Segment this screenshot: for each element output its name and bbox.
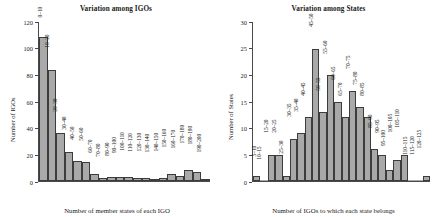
bar <box>167 174 176 181</box>
bar-category-label: 90–100 <box>112 137 118 153</box>
bar <box>268 155 275 182</box>
bar-category-label: 55–60 <box>324 40 330 53</box>
bar-category-label: 70–75 <box>346 56 352 69</box>
bar <box>275 155 282 182</box>
y-tick-mark-igos <box>35 102 38 103</box>
y-tick-label-igos: 40 <box>27 125 33 132</box>
bar-slot: 120–130 <box>142 22 151 181</box>
y-tick-label-states: 20 <box>241 72 247 79</box>
bar-category-label: 140–150 <box>154 133 160 152</box>
bar-slot: 45–50 <box>312 22 319 181</box>
plot-area-states: 051015202530 5–1010–1515–2020–2525–3030–… <box>252 22 430 182</box>
bar-category-label: 60–70 <box>88 139 94 152</box>
bar-slot: 110–115 <box>408 22 415 181</box>
bar-category-label: 160–170 <box>171 130 177 149</box>
x-axis-line-igos <box>38 181 210 182</box>
bar-slot: 20–30 <box>56 22 65 181</box>
y-tick-label-states: 5 <box>244 152 247 159</box>
bar <box>401 155 408 182</box>
chart-title-states: Variation among States <box>218 5 439 13</box>
x-axis-line-states <box>252 181 430 182</box>
bar <box>342 117 349 181</box>
y-tick-mark-states <box>249 22 252 23</box>
bar-category-label: 0–10 <box>38 7 44 18</box>
y-tick-label-igos: 0 <box>30 179 33 186</box>
figure-two-histograms: Variation among IGOs Number of IGOs 0204… <box>0 0 439 217</box>
bar-slot: 90–95 <box>378 22 385 181</box>
bar-slot: 150–160 <box>167 22 176 181</box>
bar <box>408 180 415 181</box>
plot-area-igos: 020406080100120 0–1010–2020–3030–4040–50… <box>38 22 210 182</box>
bar-category-label: 80–90 <box>105 142 111 155</box>
bar <box>393 160 400 181</box>
bar-category-label: 105–110 <box>395 109 401 127</box>
bar-slot: 105–110 <box>401 22 408 181</box>
bar-category-label: 30–40 <box>62 117 68 130</box>
bar-category-label: 15–20 <box>265 119 271 132</box>
bar <box>290 139 297 181</box>
y-tick-mark-igos <box>35 75 38 76</box>
bar <box>39 37 48 181</box>
bar-category-label: 170–180 <box>179 125 185 144</box>
bar-category-label: 20–25 <box>272 119 278 132</box>
y-tick-label-states: 0 <box>244 179 247 186</box>
y-tick-label-igos: 80 <box>27 72 33 79</box>
bar <box>327 75 334 181</box>
x-axis-label-states: Number of IGOs to which each state belon… <box>218 207 439 214</box>
bar-slot: 115–120 <box>415 22 422 181</box>
bar-category-label: 100–105 <box>388 114 394 133</box>
bar <box>48 70 57 181</box>
bar <box>159 178 168 181</box>
bar <box>90 174 99 181</box>
y-tick-mark-igos <box>35 22 38 23</box>
y-tick-label-states: 30 <box>241 19 247 26</box>
bar-category-label: 80–85 <box>361 82 367 95</box>
y-tick-mark-states <box>249 128 252 129</box>
bar <box>65 152 74 181</box>
bar <box>116 177 125 181</box>
bar-slot: 60–65 <box>334 22 341 181</box>
bar <box>150 179 159 181</box>
bar <box>107 177 116 181</box>
y-tick-label-states: 15 <box>241 99 247 106</box>
bar-slot: 190–200 <box>201 22 210 181</box>
y-tick-label-igos: 120 <box>23 19 33 26</box>
bar-slot: 70–75 <box>349 22 356 181</box>
bar-slot: 15–20 <box>268 22 275 181</box>
y-tick-label-igos: 20 <box>27 152 33 159</box>
bar-slot: 180–190 <box>193 22 202 181</box>
bar-category-label: 75–80 <box>353 72 359 85</box>
bar <box>305 117 312 181</box>
y-axis-label-states: Number of States <box>227 94 234 140</box>
bar-slot: 55–60 <box>327 22 334 181</box>
y-tick-mark-states <box>249 102 252 103</box>
bar <box>378 155 385 182</box>
bar-category-label: 180–190 <box>188 126 194 145</box>
bar <box>99 178 108 181</box>
bar-series-igos: 0–1010–2020–3030–4040–5050–6060–7070–808… <box>39 22 210 181</box>
bar-slot: 35–40 <box>297 22 304 181</box>
bar-slot: 100–110 <box>124 22 133 181</box>
bar-slot: 40–50 <box>73 22 82 181</box>
bar-slot: 40–45 <box>305 22 312 181</box>
bar-slot: 20–25 <box>275 22 282 181</box>
bar-series-states: 5–1010–1515–2020–2525–3030–3535–4040–454… <box>253 22 430 181</box>
bar-slot: 120–125 <box>423 22 430 181</box>
bar-category-label: 25–30 <box>280 141 286 154</box>
bar-category-label: 45–50 <box>309 13 315 26</box>
chart-panel-states: Variation among States Number of States … <box>218 0 439 217</box>
bar <box>334 102 341 182</box>
bar-slot: 95–100 <box>386 22 393 181</box>
bar-category-label: 50–55 <box>316 77 322 90</box>
bar-slot: 90–100 <box>116 22 125 181</box>
bar-category-label: 110–120 <box>128 133 134 151</box>
bar-slot: 25–30 <box>283 22 290 181</box>
bar-category-label: 35–40 <box>294 98 300 111</box>
bar-category-label: 110–115 <box>402 136 408 154</box>
bar <box>349 91 356 181</box>
bar-category-label: 120–125 <box>417 130 423 149</box>
bar <box>386 170 393 181</box>
bar <box>312 49 319 182</box>
bar <box>356 107 363 181</box>
y-tick-label-states: 10 <box>241 125 247 132</box>
